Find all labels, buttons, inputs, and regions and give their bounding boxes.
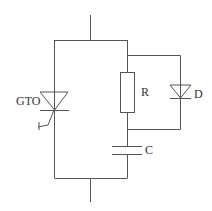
capacitor-label: C [145, 144, 153, 156]
gto-label: GTO [16, 95, 40, 107]
diode-label: D [194, 88, 203, 100]
capacitor-icon [112, 147, 142, 155]
diode-branch-wire [128, 56, 181, 130]
gto-thyristor-icon [38, 92, 69, 130]
circuit-diagram: GTO R D C [0, 0, 212, 211]
resistor-label: R [141, 86, 149, 98]
resistor-icon [121, 73, 135, 113]
